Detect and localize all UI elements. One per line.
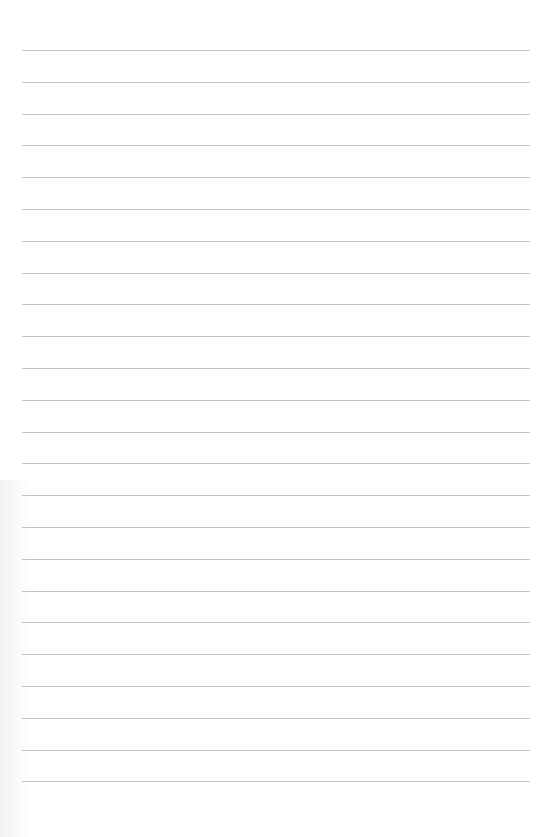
ruled-line (22, 718, 530, 719)
ruled-line (22, 400, 530, 401)
ruled-line (22, 654, 530, 655)
page-edge-shadow (0, 480, 30, 837)
ruled-line (22, 432, 530, 433)
ruled-line (22, 50, 530, 51)
ruled-line (22, 495, 530, 496)
ruled-line (22, 527, 530, 528)
ruled-line (22, 145, 530, 146)
ruled-line (22, 781, 530, 782)
ruled-line (22, 241, 530, 242)
ruled-line (22, 209, 530, 210)
ruled-line (22, 304, 530, 305)
ruled-line (22, 273, 530, 274)
ruled-line (22, 622, 530, 623)
ruled-line (22, 559, 530, 560)
ruled-line (22, 368, 530, 369)
ruled-line (22, 114, 530, 115)
ruled-line (22, 82, 530, 83)
ruled-line (22, 686, 530, 687)
ruled-line (22, 750, 530, 751)
ruled-line (22, 336, 530, 337)
ruled-line (22, 591, 530, 592)
ruled-line (22, 177, 530, 178)
ruled-line (22, 463, 530, 464)
